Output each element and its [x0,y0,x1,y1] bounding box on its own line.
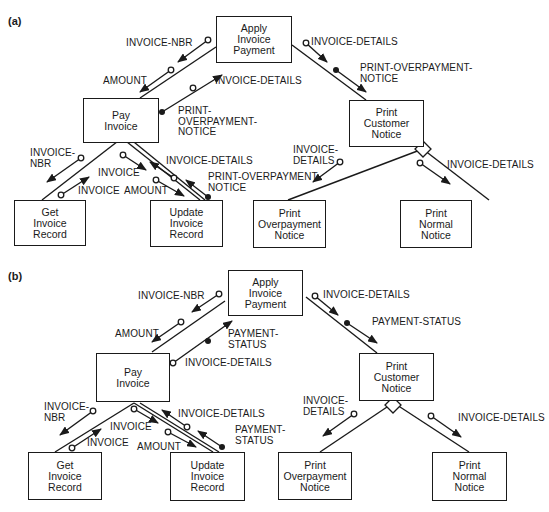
module-apply-invoice-payment-b[interactable]: Apply Invoice Payment [228,270,303,316]
couple-label: INVOICE [98,168,140,179]
module-label: Update Invoice Record [191,460,225,493]
module-label: Print Customer Notice [374,361,420,394]
couple-label: INVOICE- DETAILS [303,396,348,417]
module-label: Print Customer Notice [364,107,410,140]
module-label: Print Normal Notice [419,208,453,241]
couple-label: PAYMENT-STATUS [372,317,461,328]
couple-label: INVOICE- DETAILS [293,145,338,166]
couple-label: INVOICE-DETAILS [458,413,545,424]
module-label: Apply Invoice Payment [233,23,274,56]
panel-a-label: (a) [8,15,21,27]
couple-label: INVOICE-DETAILS [323,290,410,301]
couple-label: AMOUNT [115,329,159,340]
module-print-normal-notice-a[interactable]: Print Normal Notice [400,200,472,248]
couple-label: INVOICE- NBR [30,148,75,169]
module-print-customer-notice-b[interactable]: Print Customer Notice [359,353,434,401]
module-label: Print Overpayment Notice [283,460,346,493]
couple-label: INVOICE-NBR [126,38,193,49]
couple-label: INVOICE [78,186,120,197]
couple-label: INVOICE [87,438,129,449]
module-get-invoice-record-a[interactable]: Get Invoice Record [14,200,86,246]
module-get-invoice-record-b[interactable]: Get Invoice Record [28,452,102,500]
module-label: Pay Invoice [116,367,149,389]
couple-label: INVOICE- NBR [44,402,89,423]
module-print-overpayment-notice-a[interactable]: Print Overpayment Notice [253,200,326,248]
module-label: Apply Invoice Payment [245,277,286,310]
module-label: Print Normal Notice [453,460,487,493]
module-print-overpayment-notice-b[interactable]: Print Overpayment Notice [278,452,352,500]
couple-label: AMOUNT [124,186,168,197]
couple-label: INVOICE-DETAILS [447,160,534,171]
couple-label: INVOICE-DETAILS [185,358,272,369]
panel-b-label: (b) [8,270,22,282]
module-label: Update Invoice Record [170,207,204,240]
couple-label: INVOICE-DETAILS [178,409,265,420]
couple-label: INVOICE-DETAILS [166,156,253,167]
couple-label: INVOICE-DETAILS [215,76,302,87]
module-apply-invoice-payment-a[interactable]: Apply Invoice Payment [216,16,292,63]
couple-label: PRINT-OVERPAYMENT- NOTICE [360,63,473,84]
couple-label: AMOUNT [137,442,181,453]
module-label: Get Invoice Record [48,460,82,493]
module-update-invoice-record-a[interactable]: Update Invoice Record [150,200,223,247]
couple-label: PRINT-OVERPAYMENT- NOTICE [208,172,321,193]
couple-label: INVOICE-NBR [138,291,205,302]
couple-label: INVOICE-DETAILS [311,37,398,48]
module-update-invoice-record-b[interactable]: Update Invoice Record [170,452,245,501]
couple-label: PAYMENT- STATUS [228,329,278,350]
module-pay-invoice-a[interactable]: Pay Invoice [83,98,159,143]
module-pay-invoice-b[interactable]: Pay Invoice [96,353,170,402]
module-label: Pay Invoice [104,110,137,132]
couple-label: PAYMENT- STATUS [235,425,285,446]
couple-label: PRINT- OVERPAYMENT- NOTICE [178,106,257,138]
couple-label: INVOICE [110,422,152,433]
module-label: Get Invoice Record [33,207,67,240]
module-print-customer-notice-a[interactable]: Print Customer Notice [349,100,424,147]
couple-label: AMOUNT [103,76,147,87]
module-label: Print Overpayment Notice [258,208,321,241]
module-print-normal-notice-b[interactable]: Print Normal Notice [432,452,507,501]
